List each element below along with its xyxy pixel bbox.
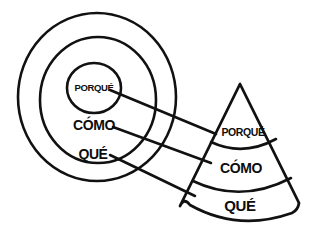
cone-label-como: CÓMO xyxy=(220,159,262,176)
connector-porque xyxy=(110,90,216,134)
cone-divider-lower xyxy=(193,178,291,192)
diagram-canvas: PORQUÉ CÓMO QUÉ PORQUÉ CÓMO QUÉ xyxy=(0,0,317,249)
cone-divider-upper xyxy=(211,139,276,149)
cone-label-que: QUÉ xyxy=(224,197,256,214)
circle-middle-como xyxy=(40,37,156,163)
cone-label-porque: PORQUÉ xyxy=(221,126,265,138)
circle-label-que: QUÉ xyxy=(78,146,107,162)
circle-label-porque: PORQUÉ xyxy=(75,82,114,93)
circle-labels-group: PORQUÉ CÓMO QUÉ xyxy=(73,82,115,162)
connector-como xyxy=(113,127,211,163)
circle-label-como: CÓMO xyxy=(73,116,115,133)
cone-labels-group: PORQUÉ CÓMO QUÉ xyxy=(220,126,265,214)
diagram-drawing: PORQUÉ CÓMO QUÉ PORQUÉ CÓMO QUÉ xyxy=(0,0,317,249)
